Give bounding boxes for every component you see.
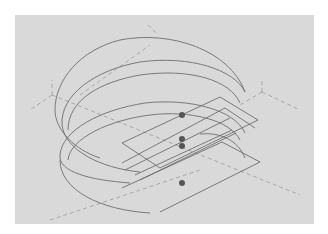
point-4 [179, 180, 185, 186]
axis-guide-right [240, 78, 300, 110]
cad-viewport[interactable] [15, 15, 314, 224]
axis-guide-left [30, 80, 300, 195]
bottom-ring-arc [60, 134, 245, 213]
point-3 [179, 143, 185, 149]
bracket-middle [122, 108, 255, 170]
axis-guide-lower [50, 170, 200, 220]
top-ring-inner-arc [62, 60, 245, 172]
point-1 [179, 112, 185, 118]
wireframe-drawing [15, 15, 314, 224]
point-2 [179, 136, 185, 142]
bracket-top [122, 97, 258, 168]
